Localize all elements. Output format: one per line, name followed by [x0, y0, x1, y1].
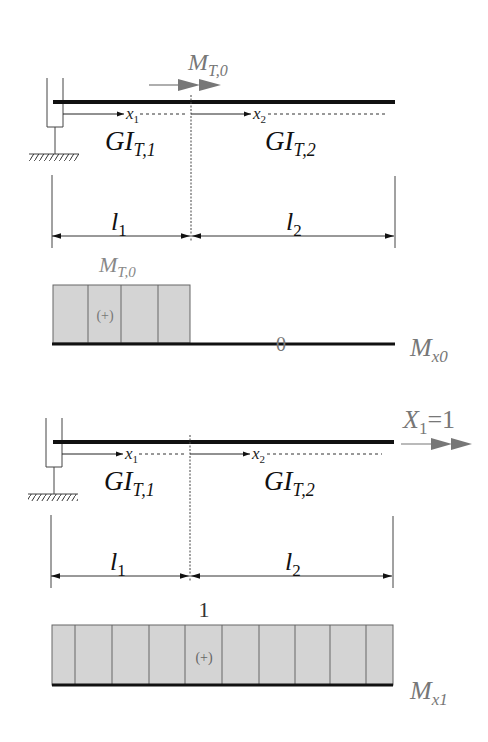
- dimension-lines: [51, 515, 393, 588]
- applied-torque-arrow-icon: [149, 79, 221, 91]
- x1-label: x1: [125, 104, 139, 125]
- applied-torque-label: MT,0: [187, 49, 228, 79]
- moment-sign: (+): [195, 650, 213, 666]
- x2-label: x2: [252, 104, 266, 125]
- bottom-beam-system: x1 x2 GIT,1 GIT,2 X1=1 l1 l2: [28, 405, 472, 588]
- unit-torque-arrow-icon: [401, 438, 472, 450]
- x2-label: x2: [251, 444, 265, 465]
- length-label-1: l1: [110, 547, 126, 580]
- length-label-2: l2: [285, 547, 301, 580]
- stiffness-label-2: GIT,2: [265, 126, 316, 160]
- moment-value-label: 1: [199, 597, 210, 622]
- moment-diagram-mx1: (+) 1 Mx1: [52, 597, 448, 709]
- moment-diagram-mx0: (+) MT,0 0 Mx0: [52, 252, 448, 366]
- stiffness-label-1: GIT,1: [104, 466, 155, 500]
- top-beam-system: x1 x2 GIT,1 GIT,2 MT,0 l1 l2: [29, 49, 395, 248]
- moment-name-label: Mx0: [409, 333, 448, 366]
- dimension-lines: [52, 175, 395, 248]
- fixed-support-icon: [29, 78, 79, 161]
- stiffness-label-2: GIT,2: [264, 466, 315, 500]
- zero-label: 0: [276, 333, 286, 355]
- torsion-beam-diagram: x1 x2 GIT,1 GIT,2 MT,0 l1 l2 (+): [0, 0, 488, 742]
- stiffness-label-1: GIT,1: [105, 126, 156, 160]
- length-label-1: l1: [111, 207, 127, 240]
- moment-sign: (+): [96, 308, 114, 324]
- moment-value-label: MT,0: [98, 252, 136, 280]
- unit-torque-label: X1=1: [402, 405, 455, 438]
- moment-name-label: Mx1: [409, 676, 448, 709]
- fixed-support-icon: [28, 418, 78, 501]
- length-label-2: l2: [286, 207, 302, 240]
- x1-label: x1: [124, 444, 138, 465]
